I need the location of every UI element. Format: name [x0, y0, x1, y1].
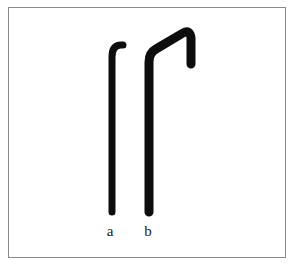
- figure-image: a b: [0, 0, 295, 266]
- shape-b-hooked-rod: [149, 32, 191, 212]
- figure-label-a: a: [103, 224, 117, 239]
- shape-a-hooked-rod: [112, 45, 123, 212]
- figure-label-b: b: [141, 224, 155, 239]
